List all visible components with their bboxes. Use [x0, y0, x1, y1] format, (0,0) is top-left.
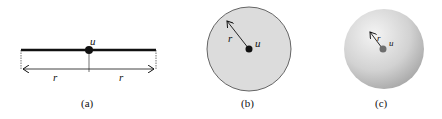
point-label-u: u [389, 38, 394, 48]
caption-b: (b) [241, 97, 254, 110]
panel-a: u r r (a) [21, 35, 156, 110]
radius-label-left: r [53, 71, 58, 83]
center-point [246, 46, 253, 53]
radius-label-right: r [119, 71, 124, 83]
panel-c: r u (c) [344, 9, 424, 110]
point-label-u: u [90, 35, 96, 47]
diagram-canvas: u r r (a) r u (b) r u (c) [0, 0, 442, 119]
point-label-u: u [255, 37, 261, 49]
radius-label: r [377, 33, 381, 43]
center-point [85, 46, 93, 54]
center-point [380, 46, 387, 53]
caption-c: (c) [375, 97, 388, 110]
radius-label: r [228, 32, 233, 44]
panel-b: r u (b) [207, 7, 291, 110]
caption-a: (a) [81, 97, 94, 110]
